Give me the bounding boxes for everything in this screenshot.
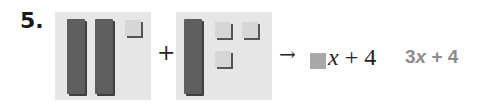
- answer-blank-box: [310, 53, 326, 69]
- expression-constant: + 4: [339, 44, 377, 70]
- x-tile: [67, 19, 85, 94]
- problem-number: 5.: [20, 8, 44, 33]
- answer-text: 3x + 4: [405, 46, 458, 68]
- algebra-tile-model-right: [176, 12, 272, 100]
- unit-tile: [125, 20, 141, 36]
- unit-tile: [215, 51, 231, 67]
- answer-coefficient: 3: [405, 46, 416, 67]
- x-tile: [184, 19, 202, 94]
- answer-constant: + 4: [426, 46, 458, 67]
- arrow-icon: →: [279, 42, 296, 66]
- x-tile: [95, 19, 113, 94]
- unit-tile: [215, 22, 231, 38]
- answer-variable: x: [416, 46, 427, 67]
- unit-tile: [242, 22, 258, 38]
- algebra-tile-model-left: [55, 12, 151, 100]
- expression-variable: x: [328, 44, 339, 70]
- expression: x + 4: [328, 44, 376, 71]
- plus-sign: +: [157, 40, 175, 65]
